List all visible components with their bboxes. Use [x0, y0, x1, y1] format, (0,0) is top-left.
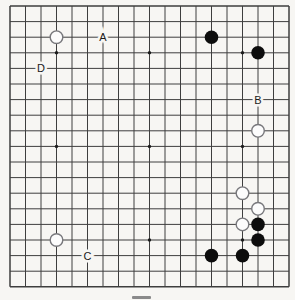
- black-stone: [251, 218, 265, 232]
- black-stone: [251, 233, 265, 247]
- point-label: A: [99, 31, 107, 43]
- white-stone: [236, 187, 249, 200]
- white-stone: [50, 234, 63, 247]
- black-stone: [236, 249, 250, 263]
- star-point: [241, 238, 244, 241]
- star-point: [148, 238, 151, 241]
- white-stone: [50, 31, 63, 44]
- caption-top-fragment: [132, 296, 151, 299]
- star-point: [55, 145, 58, 148]
- white-stone: [252, 125, 265, 138]
- white-stone: [252, 203, 265, 216]
- black-stone: [205, 249, 219, 263]
- star-point: [241, 145, 244, 148]
- go-board: ABCD: [0, 0, 295, 300]
- star-point: [241, 51, 244, 54]
- star-point: [55, 51, 58, 54]
- diagram-page: ABCD: [0, 0, 295, 300]
- point-label: D: [37, 62, 45, 74]
- point-label: C: [84, 250, 92, 262]
- black-stone: [251, 46, 265, 60]
- black-stone: [205, 30, 219, 44]
- star-point: [148, 51, 151, 54]
- point-label: B: [254, 94, 261, 106]
- star-point: [148, 145, 151, 148]
- white-stone: [236, 218, 249, 231]
